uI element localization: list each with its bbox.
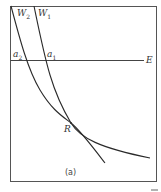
diagram-figure: W2 W1 a2 a1 E R (a) xyxy=(0,0,161,192)
label-a1: a1 xyxy=(47,50,56,61)
diagram-canvas xyxy=(0,0,161,192)
curve-w2 xyxy=(11,6,105,163)
label-w1: W1 xyxy=(38,9,51,20)
label-e-axis: E xyxy=(146,56,153,65)
label-r: R xyxy=(64,125,71,134)
figure-caption: (a) xyxy=(65,169,76,177)
label-w2: W2 xyxy=(17,9,30,20)
label-a2: a2 xyxy=(13,50,22,61)
curve-w1 xyxy=(34,6,150,158)
